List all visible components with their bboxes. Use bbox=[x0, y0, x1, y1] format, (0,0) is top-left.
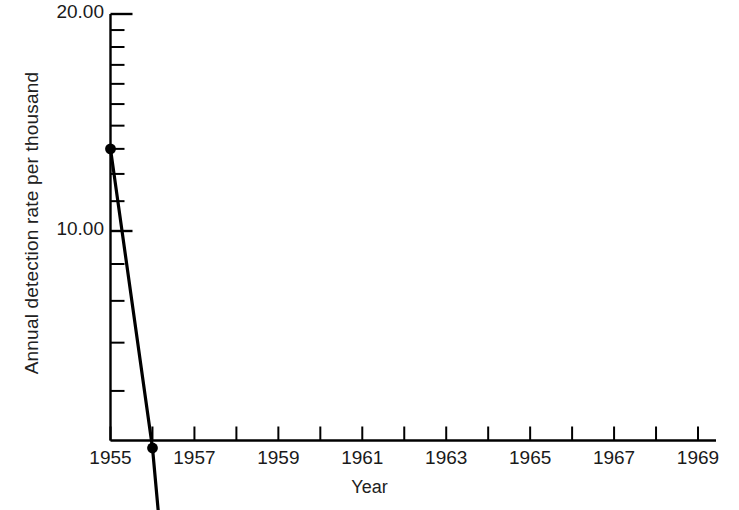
axis-lines bbox=[111, 14, 717, 441]
x-tick-label: 1969 bbox=[653, 447, 739, 469]
y-tick-label: 10.00 bbox=[0, 218, 104, 240]
x-tick-label: 1963 bbox=[401, 447, 491, 469]
figure-panel: Annual detection rate per thousand Year … bbox=[0, 0, 739, 510]
y-axis-ticks bbox=[111, 14, 133, 391]
x-tick-label: 1965 bbox=[485, 447, 575, 469]
x-tick-label: 1957 bbox=[149, 447, 239, 469]
x-tick-label: 1961 bbox=[317, 447, 407, 469]
x-tick-label: 1955 bbox=[66, 447, 156, 469]
data-point bbox=[105, 144, 116, 155]
x-tick-label: 1967 bbox=[569, 447, 659, 469]
x-axis-ticks bbox=[111, 427, 699, 441]
x-tick-label: 1959 bbox=[233, 447, 323, 469]
figure-caption bbox=[0, 500, 739, 510]
plot-area bbox=[0, 0, 739, 510]
y-tick-label: 20.00 bbox=[0, 1, 104, 23]
